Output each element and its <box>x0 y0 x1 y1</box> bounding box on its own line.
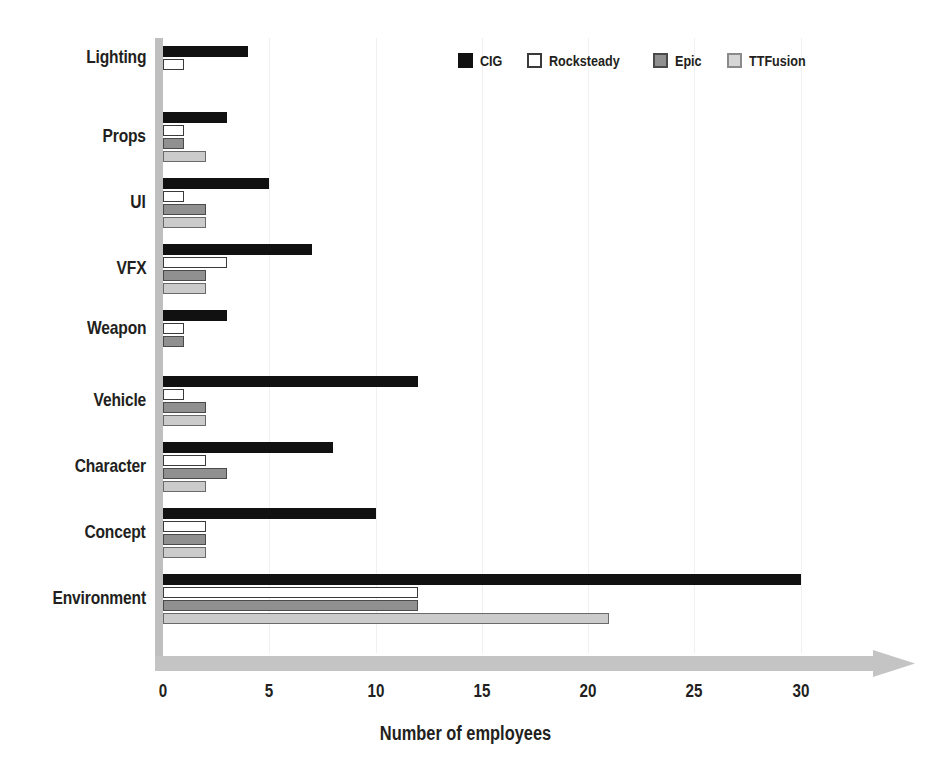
x-tick-30: 30 <box>792 680 809 702</box>
bar-vfx-ttfusion <box>163 283 206 294</box>
bar-vehicle-cig <box>163 376 418 387</box>
bar-weapon-rocksteady <box>163 323 184 334</box>
bar-vfx-epic <box>163 270 206 281</box>
x-axis-title-text: Number of employees <box>379 722 550 745</box>
legend-item-ttfusion[interactable]: TTFusion <box>727 52 817 69</box>
legend-label-rocksteady: Rocksteady <box>549 52 620 69</box>
legend-item-epic[interactable]: Epic <box>653 52 707 69</box>
category-label-ui: UI <box>131 191 146 213</box>
bar-lighting-rocksteady <box>163 59 184 70</box>
x-tick-0: 0 <box>159 680 167 702</box>
bar-character-epic <box>163 468 227 479</box>
x-tick-10: 10 <box>367 680 384 702</box>
bar-ui-epic <box>163 204 206 215</box>
bar-environment-rocksteady <box>163 587 418 598</box>
bar-ui-rocksteady <box>163 191 184 202</box>
x-axis-arrow-icon <box>155 650 915 678</box>
legend-swatch-rocksteady-icon <box>527 53 542 68</box>
bar-ui-ttfusion <box>163 217 206 228</box>
gridline-20 <box>588 38 589 653</box>
bar-environment-cig <box>163 574 801 585</box>
gridline-30 <box>801 38 802 653</box>
legend-swatch-epic-icon <box>653 53 668 68</box>
bar-concept-epic <box>163 534 206 545</box>
legend-label-ttfusion: TTFusion <box>749 52 806 69</box>
bar-vfx-cig <box>163 244 312 255</box>
category-label-environment: Environment <box>53 587 146 609</box>
bar-vfx-rocksteady <box>163 257 227 268</box>
legend-swatch-cig-icon <box>458 53 473 68</box>
bar-environment-epic <box>163 600 418 611</box>
legend: CIGRocksteadyEpicTTFusion <box>458 50 816 70</box>
bar-concept-rocksteady <box>163 521 206 532</box>
bar-environment-ttfusion <box>163 613 609 624</box>
legend-swatch-ttfusion-icon <box>727 53 742 68</box>
x-axis-title: Number of employees <box>0 722 930 745</box>
bar-concept-ttfusion <box>163 547 206 558</box>
gridline-5 <box>269 38 270 653</box>
bar-props-epic <box>163 138 184 149</box>
bar-props-ttfusion <box>163 151 206 162</box>
category-label-concept: Concept <box>85 521 146 543</box>
category-label-props: Props <box>103 125 146 147</box>
x-axis-arrow <box>155 650 915 678</box>
x-tick-25: 25 <box>686 680 703 702</box>
legend-label-epic: Epic <box>675 52 702 69</box>
y-axis-line <box>155 38 163 660</box>
category-label-vehicle: Vehicle <box>93 389 146 411</box>
bar-character-cig <box>163 442 333 453</box>
bar-vehicle-rocksteady <box>163 389 184 400</box>
bar-concept-cig <box>163 508 376 519</box>
category-label-vfx: VFX <box>116 257 146 279</box>
plot-area <box>163 38 830 653</box>
gridline-10 <box>376 38 377 653</box>
category-label-character: Character <box>75 455 146 477</box>
category-label-weapon: Weapon <box>87 317 146 339</box>
legend-label-cig: CIG <box>480 52 502 69</box>
bar-lighting-cig <box>163 46 248 57</box>
bar-vehicle-ttfusion <box>163 415 206 426</box>
bar-props-cig <box>163 112 227 123</box>
category-label-lighting: Lighting <box>86 46 146 68</box>
x-tick-20: 20 <box>580 680 597 702</box>
bar-character-rocksteady <box>163 455 206 466</box>
bar-props-rocksteady <box>163 125 184 136</box>
x-tick-15: 15 <box>473 680 490 702</box>
bar-vehicle-epic <box>163 402 206 413</box>
legend-item-rocksteady[interactable]: Rocksteady <box>527 52 633 69</box>
x-tick-5: 5 <box>265 680 273 702</box>
bar-weapon-cig <box>163 310 227 321</box>
bar-ui-cig <box>163 178 269 189</box>
bar-weapon-epic <box>163 336 184 347</box>
bar-chart: LightingPropsUIVFXWeaponVehicleCharacter… <box>0 0 930 784</box>
gridline-25 <box>694 38 695 653</box>
bar-character-ttfusion <box>163 481 206 492</box>
legend-item-cig[interactable]: CIG <box>458 52 507 69</box>
gridline-15 <box>482 38 483 653</box>
